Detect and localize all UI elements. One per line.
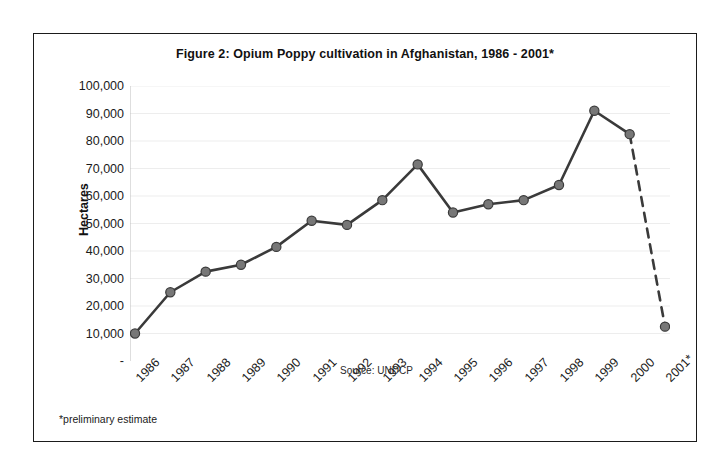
y-tick-label: 100,000	[52, 79, 124, 93]
y-axis-tick-labels: 100,00090,00080,00070,00060,00050,00040,…	[42, 86, 124, 361]
data-point-marker	[201, 267, 210, 276]
y-tick-label: 50,000	[52, 217, 124, 231]
data-point-marker	[342, 220, 351, 229]
data-point-marker	[554, 180, 563, 189]
y-tick-label: 60,000	[52, 189, 124, 203]
data-point-marker	[413, 160, 422, 169]
plot-area	[130, 86, 670, 361]
data-point-marker	[519, 196, 528, 205]
data-point-marker	[448, 208, 457, 217]
data-line-dashed-segment	[630, 134, 665, 327]
data-point-marker	[660, 322, 669, 331]
data-point-marker	[307, 216, 316, 225]
data-point-marker	[590, 106, 599, 115]
figure-frame: Figure 2: Opium Poppy cultivation in Afg…	[33, 33, 697, 442]
data-point-marker	[166, 288, 175, 297]
y-tick-label: 90,000	[52, 107, 124, 121]
source-note: Source: UNDCP	[340, 365, 413, 376]
footnote: *preliminary estimate	[59, 413, 157, 425]
y-tick-label: -	[52, 354, 124, 368]
data-line-series	[135, 111, 665, 334]
y-tick-label: 10,000	[52, 327, 124, 341]
y-tick-label: 30,000	[52, 272, 124, 286]
data-point-marker	[625, 130, 634, 139]
chart-title: Figure 2: Opium Poppy cultivation in Afg…	[34, 47, 696, 61]
y-tick-label: 80,000	[52, 134, 124, 148]
y-tick-label: 40,000	[52, 244, 124, 258]
data-point-marker	[272, 242, 281, 251]
data-line-solid-segment	[135, 111, 630, 334]
y-tick-label: 20,000	[52, 299, 124, 313]
y-tick-label: 70,000	[52, 162, 124, 176]
data-point-marker	[484, 200, 493, 209]
line-chart-canvas	[130, 86, 670, 361]
data-point-marker	[130, 329, 139, 338]
x-axis-tick-labels: 1986198719881989199019911992199319941995…	[130, 371, 690, 441]
data-point-marker	[236, 260, 245, 269]
data-point-marker	[378, 196, 387, 205]
